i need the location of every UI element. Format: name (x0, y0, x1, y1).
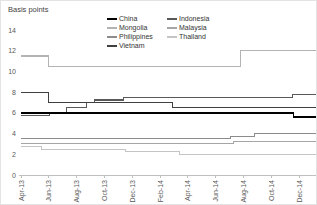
y-tick-label: 2 (12, 151, 16, 158)
chart-container: 02468101214Apr-13Jun-13Aug-13Oct-13Dec-1… (0, 0, 317, 205)
legend-label: Vietnam (119, 42, 145, 49)
legend-label: Thailand (179, 33, 206, 40)
legend-label: Indonesia (179, 15, 209, 22)
x-tick-label: Oct-14 (268, 180, 275, 201)
x-tick-label: Apr-13 (18, 180, 26, 201)
legend-label: China (119, 15, 137, 22)
x-tick-label: Apr-14 (184, 180, 192, 201)
legend-line-swatch-icon (167, 18, 177, 20)
x-tick-label: Jun-14 (212, 180, 219, 202)
legend-line-swatch-icon (107, 18, 117, 20)
legend-line-swatch-icon (107, 27, 117, 29)
x-tick-label: Aug-13 (73, 180, 81, 203)
legend-column-2: Indonesia Malaysia Thailand (167, 14, 209, 50)
legend-item-thailand: Thailand (167, 32, 209, 41)
legend-column-1: China Mongolia Philippines Vietnam (107, 14, 167, 50)
y-tick-label: 14 (8, 27, 16, 34)
legend: China Mongolia Philippines Vietnam Indon… (107, 14, 209, 50)
legend-label: Malaysia (179, 24, 207, 31)
y-tick-label: 4 (12, 130, 16, 137)
legend-label: Philippines (119, 33, 153, 40)
legend-line-swatch-icon (167, 27, 177, 29)
legend-line-swatch-icon (167, 36, 177, 38)
series-line-mongolia (21, 51, 316, 67)
series-line-philippines (21, 134, 316, 139)
legend-item-indonesia: Indonesia (167, 14, 209, 23)
legend-line-swatch-icon (107, 36, 117, 38)
x-tick-label: Feb-14 (157, 180, 164, 202)
y-tick-label: 0 (12, 172, 16, 179)
x-tick-label: Aug-14 (240, 180, 248, 203)
y-tick-label: 12 (8, 47, 16, 54)
x-tick-label: Dec-13 (129, 180, 136, 203)
chart-title: Basis points (8, 5, 48, 14)
x-tick-label: Jun-13 (45, 180, 52, 202)
legend-item-philippines: Philippines (107, 32, 167, 41)
series-line-vietnam (21, 92, 316, 108)
series-line-china (21, 113, 316, 117)
y-tick-label: 6 (12, 109, 16, 116)
x-tick-label: Dec-14 (296, 180, 303, 203)
y-tick-label: 10 (8, 68, 16, 75)
legend-item-china: China (107, 14, 167, 23)
legend-line-swatch-icon (107, 45, 117, 47)
legend-label: Mongolia (119, 24, 147, 31)
legend-item-vietnam: Vietnam (107, 41, 167, 50)
y-tick-label: 8 (12, 89, 16, 96)
x-tick-label: Oct-13 (101, 180, 108, 201)
legend-item-mongolia: Mongolia (107, 23, 167, 32)
series-line-thailand (21, 147, 316, 155)
series-line-malaysia (21, 141, 316, 144)
legend-item-malaysia: Malaysia (167, 23, 209, 32)
